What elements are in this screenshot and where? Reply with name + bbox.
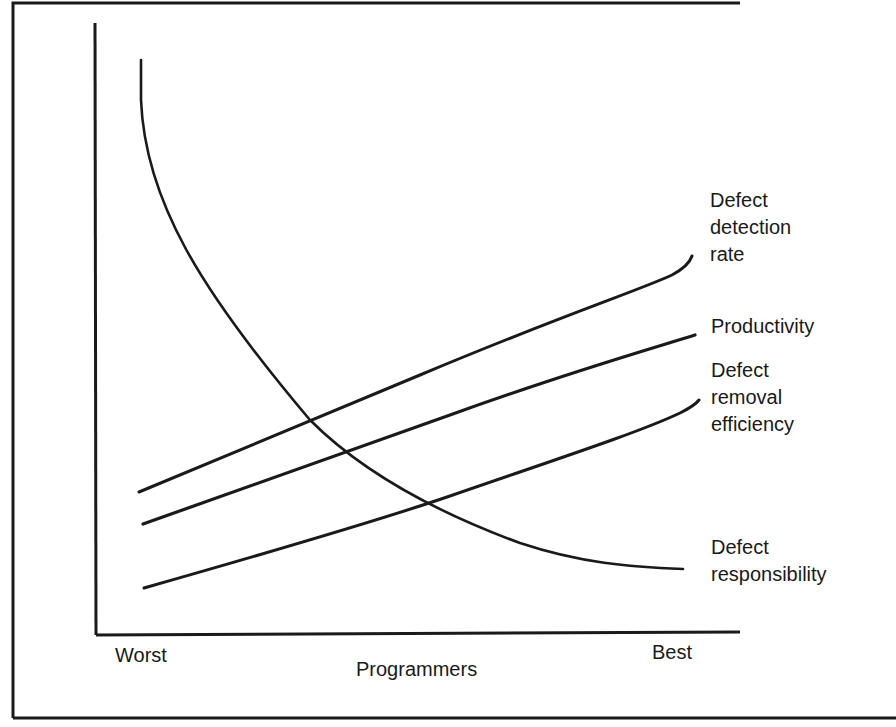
label-productivity: Productivity xyxy=(711,313,814,340)
x-tick-worst: Worst xyxy=(115,644,167,667)
y-axis xyxy=(95,23,96,635)
x-axis-title: Programmers xyxy=(356,658,477,681)
series-productivity xyxy=(143,335,695,524)
series-defect-responsibility xyxy=(141,60,683,569)
label-defect-removal-efficiency: Defect removal efficiency xyxy=(711,357,794,438)
series-defect-detection-rate xyxy=(139,256,692,492)
x-tick-best: Best xyxy=(652,641,692,664)
x-axis xyxy=(96,632,740,635)
label-defect-detection-rate: Defect detection rate xyxy=(710,187,791,268)
label-defect-responsibility: Defect responsibility xyxy=(711,534,827,588)
